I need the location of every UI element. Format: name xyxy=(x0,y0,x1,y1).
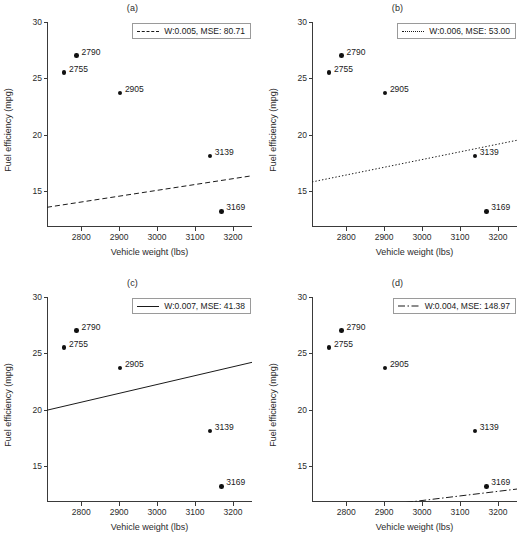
data-point xyxy=(219,484,224,489)
x-tick-mark xyxy=(346,227,347,231)
y-axis-label: Fuel efficiency (mpg) xyxy=(3,50,13,210)
data-point-label: 2790 xyxy=(347,322,366,332)
x-tick-label: 2800 xyxy=(337,232,356,242)
x-tick-label: 2800 xyxy=(337,507,356,517)
data-point xyxy=(74,53,79,58)
y-tick-label: 20 xyxy=(33,130,42,140)
x-axis-label: Vehicle weight (lbs) xyxy=(47,522,252,532)
x-axis-label: Vehicle weight (lbs) xyxy=(312,247,517,257)
x-tick-label: 2800 xyxy=(72,507,91,517)
data-point xyxy=(219,209,224,214)
x-tick-label: 3100 xyxy=(186,507,205,517)
data-point-label: 2905 xyxy=(390,84,409,94)
x-tick-mark xyxy=(460,502,461,506)
x-axis-label: Vehicle weight (lbs) xyxy=(47,247,252,257)
legend-label: W:0.004, MSE: 148.97 xyxy=(425,301,510,311)
x-tick-label: 2800 xyxy=(72,232,91,242)
data-point xyxy=(484,484,489,489)
x-tick-mark xyxy=(422,502,423,506)
panel-title: (b) xyxy=(265,3,530,13)
figure-canvas: (a)1520253028002900300031003200Fuel effi… xyxy=(0,0,530,550)
panel-title: (a) xyxy=(0,3,265,13)
x-tick-label: 3000 xyxy=(413,232,432,242)
y-tick-label: 25 xyxy=(33,73,42,83)
data-point-label: 2790 xyxy=(82,47,101,57)
subplot-d: (d)1520253028002900300031003200Fuel effi… xyxy=(265,275,530,550)
x-tick-label: 3000 xyxy=(148,232,167,242)
y-tick-label: 30 xyxy=(298,292,307,302)
y-axis-label: Fuel efficiency (mpg) xyxy=(268,325,278,485)
x-tick-label: 3000 xyxy=(413,507,432,517)
legend-box: W:0.005, MSE: 80.71 xyxy=(132,23,251,39)
x-tick-mark xyxy=(422,227,423,231)
x-tick-mark xyxy=(498,502,499,506)
x-tick-label: 3100 xyxy=(451,232,470,242)
x-tick-mark xyxy=(157,502,158,506)
x-axis-label: Vehicle weight (lbs) xyxy=(312,522,517,532)
legend-line-sample xyxy=(398,304,420,308)
data-point-label: 2755 xyxy=(334,64,353,74)
x-tick-label: 3000 xyxy=(148,507,167,517)
y-tick-label: 15 xyxy=(33,461,42,471)
x-tick-label: 3100 xyxy=(451,507,470,517)
data-point xyxy=(74,328,79,333)
data-point-label: 2790 xyxy=(347,47,366,57)
x-tick-mark xyxy=(346,502,347,506)
data-point-label: 2905 xyxy=(125,359,144,369)
panel-title: (d) xyxy=(265,278,530,288)
x-tick-label: 3200 xyxy=(489,507,508,517)
data-point-label: 2905 xyxy=(390,359,409,369)
data-point-label: 3169 xyxy=(226,477,245,487)
y-tick-label: 30 xyxy=(33,292,42,302)
y-tick-label: 30 xyxy=(298,17,307,27)
data-point-label: 3139 xyxy=(215,422,234,432)
legend-label: W:0.006, MSE: 53.00 xyxy=(429,26,510,36)
data-point-label: 2755 xyxy=(69,64,88,74)
data-point-label: 2905 xyxy=(125,84,144,94)
data-point-label: 3139 xyxy=(480,422,499,432)
y-tick-label: 20 xyxy=(33,405,42,415)
x-tick-mark xyxy=(81,502,82,506)
x-tick-mark xyxy=(233,227,234,231)
x-tick-label: 2900 xyxy=(375,232,394,242)
y-tick-label: 25 xyxy=(298,348,307,358)
x-tick-mark xyxy=(384,502,385,506)
x-tick-label: 2900 xyxy=(110,232,129,242)
legend-line-sample xyxy=(402,31,424,32)
data-point-label: 3169 xyxy=(491,202,510,212)
y-tick-label: 15 xyxy=(298,461,307,471)
legend-box: W:0.006, MSE: 53.00 xyxy=(397,23,516,39)
data-point-label: 3139 xyxy=(215,147,234,157)
y-axis-label: Fuel efficiency (mpg) xyxy=(268,50,278,210)
x-tick-mark xyxy=(157,227,158,231)
x-tick-mark xyxy=(81,227,82,231)
data-point-label: 3169 xyxy=(226,202,245,212)
x-tick-label: 3200 xyxy=(224,507,243,517)
x-tick-mark xyxy=(119,227,120,231)
x-tick-mark xyxy=(460,227,461,231)
y-tick-label: 15 xyxy=(33,186,42,196)
x-tick-mark xyxy=(384,227,385,231)
y-tick-label: 25 xyxy=(298,73,307,83)
y-tick-label: 30 xyxy=(33,17,42,27)
y-axis-label: Fuel efficiency (mpg) xyxy=(3,325,13,485)
x-tick-label: 2900 xyxy=(375,507,394,517)
x-tick-mark xyxy=(119,502,120,506)
data-point-label: 3169 xyxy=(491,477,510,487)
legend-label: W:0.005, MSE: 80.71 xyxy=(164,26,245,36)
plot-area: 1520253028002900300031003200Fuel efficie… xyxy=(312,297,517,502)
y-tick-label: 25 xyxy=(33,348,42,358)
subplot-b: (b)1520253028002900300031003200Fuel effi… xyxy=(265,0,530,275)
plot-area: 1520253028002900300031003200Fuel efficie… xyxy=(47,297,252,502)
x-tick-label: 3200 xyxy=(224,232,243,242)
y-tick-label: 15 xyxy=(298,186,307,196)
legend-label: W:0.007, MSE: 41.38 xyxy=(164,301,245,311)
legend-box: W:0.007, MSE: 41.38 xyxy=(132,298,251,314)
data-point-label: 2755 xyxy=(69,339,88,349)
legend-box: W:0.004, MSE: 148.97 xyxy=(393,298,516,314)
data-point-label: 2755 xyxy=(334,339,353,349)
data-point xyxy=(339,328,344,333)
y-tick-label: 20 xyxy=(298,405,307,415)
data-point-label: 2790 xyxy=(82,322,101,332)
subplot-a: (a)1520253028002900300031003200Fuel effi… xyxy=(0,0,265,275)
